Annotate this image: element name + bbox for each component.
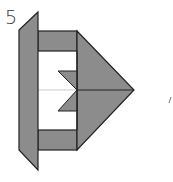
bottom-band <box>38 130 77 150</box>
white-center-area <box>38 51 77 130</box>
top-band <box>38 31 77 51</box>
left-flap <box>19 12 38 170</box>
origami-diagram <box>0 0 173 182</box>
side-mark <box>169 97 171 103</box>
